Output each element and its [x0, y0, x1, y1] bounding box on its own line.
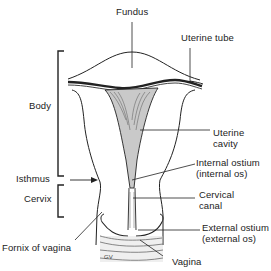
label-uterine-cavity-2: cavity: [213, 138, 238, 149]
body-left-wall: [72, 90, 101, 245]
fundus-outline: [68, 52, 200, 80]
label-isthmus: Isthmus: [16, 173, 50, 184]
label-body: Body: [29, 100, 51, 111]
leader-lines: [75, 22, 210, 256]
body-right-wall: [159, 90, 195, 245]
label-uterine-cavity-1: Uterine: [213, 127, 244, 138]
body-bracket: [58, 51, 64, 176]
label-cervix: Cervix: [24, 193, 52, 204]
label-uterine-tube: Uterine tube: [181, 32, 234, 43]
label-internal-ostium-2: (internal os): [196, 168, 247, 179]
label-cervical-canal-2: canal: [199, 200, 222, 211]
cervical-canal: [128, 188, 136, 230]
label-fornix-of-vagina: Fornix of vagina: [2, 242, 71, 253]
label-internal-ostium-1: Internal ostium: [196, 157, 260, 168]
cervix-bracket: [58, 185, 64, 217]
isthmus-arrow: [91, 177, 98, 183]
label-external-ostium-1: External ostium: [202, 222, 269, 233]
vaginal-fornix-curve: [102, 222, 162, 236]
svg-text:GV: GV: [104, 254, 113, 260]
label-fundus: Fundus: [116, 6, 148, 17]
label-cervical-canal-1: Cervical: [199, 189, 234, 200]
uterine-cavity: [105, 88, 158, 188]
uterus-diagram: GV Fundus Uterine tube Body Uterine cavi…: [0, 0, 271, 271]
label-external-ostium-2: (external os): [202, 233, 256, 244]
label-vagina: Vagina: [172, 256, 201, 267]
